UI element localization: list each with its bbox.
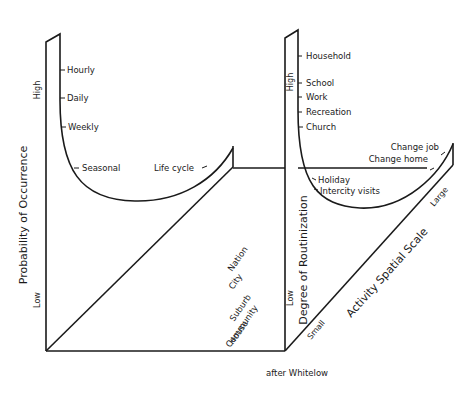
label-intercity-visits: Intercity visits (320, 186, 380, 196)
label-household: Household (306, 51, 351, 61)
label-daily: Daily (67, 93, 89, 103)
left-panel: Hourly Daily Weekly Seasonal Life cycle … (17, 34, 285, 351)
left-axis-slab (46, 34, 60, 351)
label-church: Church (306, 122, 336, 132)
label-weekly: Weekly (68, 122, 99, 132)
label-recreation: Recreation (306, 107, 351, 117)
label-seasonal: Seasonal (82, 163, 120, 173)
right-y-high: High (286, 73, 295, 91)
left-diagonal-base (46, 167, 233, 351)
left-frequency-curve (60, 100, 233, 201)
label-life-cycle: Life cycle (154, 163, 194, 173)
label-change-home: Change home (369, 154, 428, 164)
label-holiday: Holiday (318, 175, 350, 185)
left-y-high: High (33, 81, 42, 99)
left-y-low: Low (33, 292, 42, 308)
label-hourly: Hourly (67, 65, 95, 75)
scale-house: House (226, 319, 249, 347)
right-y-low: Low (286, 290, 295, 306)
scale-nation: Nation (225, 245, 249, 274)
label-school: School (306, 78, 334, 88)
left-y-axis-title: Probability of Occurrence (17, 145, 30, 284)
label-change-job: Change job (391, 142, 439, 152)
right-panel: Household School Work Recreation Church … (285, 30, 453, 351)
right-y-axis-title: Degree of Routinization (297, 195, 310, 324)
scale-city: City (226, 272, 244, 291)
credit-text: after Whitelow (266, 368, 328, 378)
label-work: Work (306, 92, 328, 102)
diagram-canvas: Hourly Daily Weekly Seasonal Life cycle … (0, 0, 474, 396)
